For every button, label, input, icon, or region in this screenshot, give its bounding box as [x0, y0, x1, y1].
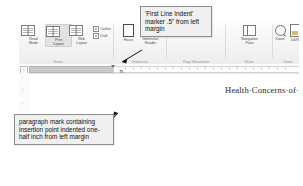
first-line-indent-callout: 'First Line Indent' marker .5" from left…	[140, 6, 212, 37]
paragraph-mark-callout-text: paragraph mark containing insertion poin…	[19, 118, 100, 140]
paragraph-mark-callout: paragraph mark containing insertion poin…	[14, 114, 114, 145]
word-view-tab-figure: Read Mode Print Layout Web Layout	[0, 0, 303, 186]
first-line-indent-callout-text: 'First Line Indent' marker .5" from left…	[145, 10, 199, 32]
